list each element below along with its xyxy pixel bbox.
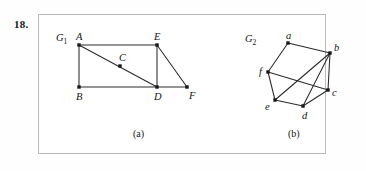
graph-name-G2: G2 [245,34,256,47]
vertex-label-D: D [154,92,162,103]
caption-a: (a) [133,128,144,139]
vertex-label-A: A [76,32,82,43]
vertex-label-F: F [189,91,195,102]
vertex-label-a: a [286,31,291,42]
vertex-label-c: c [332,88,337,99]
vertex-b [328,51,331,54]
vertex-label-E: E [154,32,160,43]
edge-b-c [328,53,330,90]
figure-page: 18. ABCDEFG1abcdefG2(a)(b) [0,0,366,171]
graph-name-G1: G1 [56,33,67,46]
vertex-label-f: f [259,67,262,78]
vertex-label-d: d [302,111,307,122]
caption-b: (b) [288,128,300,139]
problem-number: 18. [14,18,28,30]
vertex-label-b: b [334,43,339,54]
vertex-label-B: B [76,92,82,103]
vertex-label-C: C [119,53,126,64]
vertex-label-e: e [265,102,270,113]
vertex-c [326,88,329,91]
